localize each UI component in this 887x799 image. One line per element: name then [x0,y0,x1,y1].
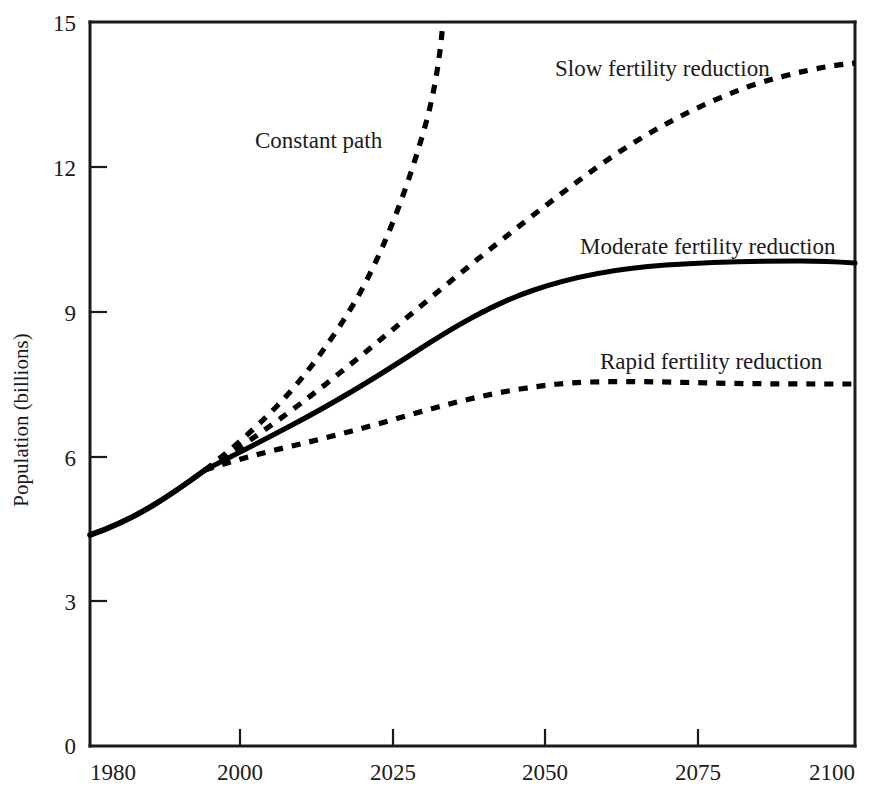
x-tick-label-2100: 2100 [809,760,855,785]
x-tick-label-2075: 2075 [675,760,721,785]
y-tick-label-3: 3 [65,590,77,615]
label-rapid-fertility: Rapid fertility reduction [600,349,823,374]
series-constant-path [205,22,443,470]
y-tick-label-0: 0 [65,734,77,759]
y-tick-label-9: 9 [65,301,77,326]
population-projection-figure: 15 12 9 6 3 0 1980 2000 2025 2050 2075 2… [0,0,887,799]
y-tick-label-15: 15 [53,11,76,36]
y-tick-label-12: 12 [53,156,76,181]
label-slow-fertility: Slow fertility reduction [555,56,770,81]
x-tick-label-2025: 2025 [370,760,416,785]
x-tick-label-2050: 2050 [522,760,568,785]
y-tick-label-6: 6 [65,446,77,471]
label-constant-path: Constant path [255,128,383,153]
chart-canvas: 15 12 9 6 3 0 1980 2000 2025 2050 2075 2… [0,0,887,799]
label-moderate-fertility: Moderate fertility reduction [580,234,836,259]
series-rapid-fertility [205,382,855,470]
x-tick-label-2000: 2000 [217,760,263,785]
x-axis-ticks [240,729,698,746]
y-axis-title: Population (billions) [9,333,33,506]
x-tick-label-1980: 1980 [90,760,136,785]
series-slow-fertility [205,63,855,470]
historical-common-path [90,470,205,535]
